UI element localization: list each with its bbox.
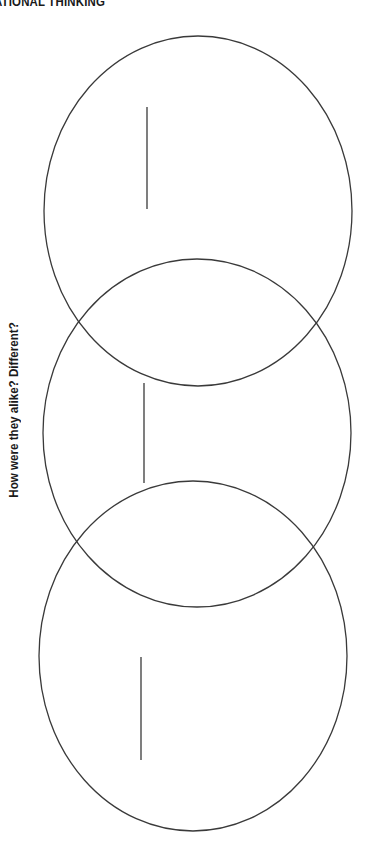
venn-circle-middle — [43, 259, 351, 607]
venn-circle-top — [44, 36, 352, 386]
venn-diagram — [0, 0, 375, 861]
venn-circle-bottom — [39, 481, 347, 831]
